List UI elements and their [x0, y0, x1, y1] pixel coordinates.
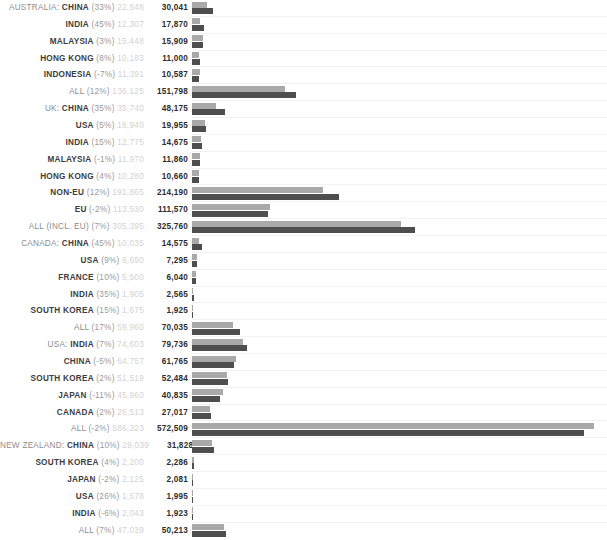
row-previous-value: 35,740	[117, 104, 144, 113]
bar-current	[192, 59, 200, 65]
row-percent-change: (-2%)	[89, 424, 110, 433]
row-label-block: HONG KONG (4%) 10,28010,660	[0, 169, 192, 186]
row-group-label: UK:	[45, 104, 59, 113]
row-plot-area	[192, 84, 607, 101]
row-entity-label: NON-EU	[50, 188, 84, 197]
row-percent-change: (12%)	[87, 188, 110, 197]
row-current-value: 50,213	[144, 523, 188, 540]
row-label-block: INDIA (15%) 12,77514,675	[0, 135, 192, 152]
row-plot-area	[192, 405, 607, 422]
row-percent-change: (26%)	[96, 492, 119, 501]
row-label-block: SOUTH KOREA (2%) 51,51952,484	[0, 371, 192, 388]
row-previous-value: 74,603	[117, 340, 144, 349]
chart-row: FRANCE (10%) 5,5006,040	[0, 270, 607, 287]
row-plot-area	[192, 101, 607, 118]
row-percent-change: (5%)	[96, 121, 114, 130]
row-label-block: CANADA: CHINA (45%) 10,03514,575	[0, 236, 192, 253]
bar-current	[192, 480, 193, 486]
row-label-block: ALL (17%) 59,96070,035	[0, 320, 192, 337]
row-entity-label: EU	[75, 205, 87, 214]
row-previous-value: 191,865	[112, 188, 144, 197]
row-label-block: USA (26%) 1,5781,995	[0, 489, 192, 506]
chart-row: USA (26%) 1,5781,995	[0, 489, 607, 506]
chart-row: ALL (7%) 47,03950,213	[0, 523, 607, 540]
row-entity-label: INDIA	[65, 20, 89, 29]
row-label-block: CHINA (-5%) 64,75761,765	[0, 354, 192, 371]
row-percent-change: (10%)	[96, 273, 119, 282]
row-current-value: 61,765	[144, 354, 188, 371]
row-percent-change: (-1%)	[94, 155, 115, 164]
row-current-value: 17,870	[144, 17, 188, 34]
row-plot-area	[192, 253, 607, 270]
row-current-value: 10,660	[144, 169, 188, 186]
bar-current	[192, 92, 296, 98]
row-plot-area	[192, 455, 607, 472]
row-percent-change: (2%)	[96, 408, 114, 417]
row-plot-area	[192, 303, 607, 320]
bar-previous	[192, 170, 199, 176]
row-previous-value: 51,519	[117, 374, 144, 383]
row-current-value: 14,575	[144, 236, 188, 253]
chart-row: ALL (INCL. EU) (7%) 305,395325,760	[0, 219, 607, 236]
bar-previous	[192, 389, 223, 395]
bar-previous	[192, 238, 199, 244]
row-percent-change: (10%)	[97, 441, 120, 450]
row-current-value: 15,909	[144, 34, 188, 51]
row-entity-label: FRANCE	[58, 273, 94, 282]
row-previous-value: 64,757	[117, 357, 144, 366]
bar-current	[192, 25, 204, 31]
row-previous-value: 5,500	[122, 273, 144, 282]
row-previous-value: 586,323	[112, 424, 144, 433]
row-plot-area	[192, 438, 607, 455]
row-current-value: 2,081	[144, 472, 188, 489]
row-percent-change: (17%)	[92, 323, 115, 332]
bar-previous	[192, 271, 196, 277]
bar-previous	[192, 35, 203, 41]
row-label-block: INDIA (45%) 12,30717,870	[0, 17, 192, 34]
bar-previous	[192, 507, 193, 513]
row-entity-label: SOUTH KOREA	[35, 458, 98, 467]
row-label-block: MALAYSIA (3%) 15,44815,909	[0, 34, 192, 51]
row-current-value: 151,798	[144, 84, 188, 101]
bar-previous	[192, 305, 193, 311]
bar-current	[192, 514, 193, 520]
row-entity-label: ALL	[69, 87, 84, 96]
row-entity-label: INDONESIA	[44, 70, 92, 79]
bar-previous	[192, 204, 270, 210]
row-current-value: 2,286	[144, 455, 188, 472]
row-group-label: NEW ZEALAND:	[0, 441, 64, 450]
bar-current	[192, 531, 226, 537]
row-percent-change: (8%)	[96, 54, 114, 63]
row-percent-change: (2%)	[96, 374, 114, 383]
row-entity-label: CHINA	[62, 104, 89, 113]
row-group-label: CANADA:	[21, 239, 59, 248]
row-previous-value: 11,391	[118, 70, 144, 79]
bar-current	[192, 362, 234, 368]
bar-current	[192, 447, 214, 453]
row-previous-value: 47,039	[117, 526, 144, 535]
row-entity-label: USA	[76, 492, 94, 501]
row-percent-change: (35%)	[92, 104, 115, 113]
row-plot-area	[192, 34, 607, 51]
row-previous-value: 1,905	[122, 290, 144, 299]
row-current-value: 31,828	[149, 438, 192, 455]
bar-current	[192, 396, 220, 402]
bar-current	[192, 211, 268, 217]
chart-row: CANADA: CHINA (45%) 10,03514,575	[0, 236, 607, 253]
bar-previous	[192, 136, 201, 142]
row-plot-area	[192, 118, 607, 135]
row-current-value: 27,017	[144, 405, 188, 422]
row-plot-area	[192, 219, 607, 236]
row-previous-value: 2,200	[122, 458, 144, 467]
bar-previous	[192, 221, 401, 227]
row-percent-change: (7%)	[91, 222, 109, 231]
bar-previous	[192, 69, 200, 75]
bar-current	[192, 261, 197, 267]
row-label-block: JAPAN (-2%) 2,1252,081	[0, 472, 192, 489]
row-entity-label: USA	[76, 121, 94, 130]
row-percent-change: (33%)	[92, 3, 115, 12]
chart-row: MALAYSIA (3%) 15,44815,909	[0, 34, 607, 51]
row-plot-area	[192, 489, 607, 506]
row-entity-label: MALAYSIA	[50, 37, 94, 46]
